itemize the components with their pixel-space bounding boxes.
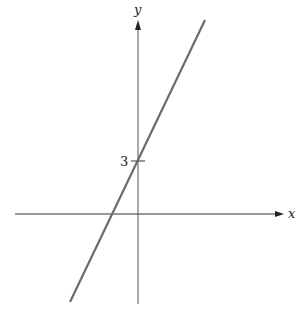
x-axis-label: x [288, 206, 296, 221]
y-axis-label: y [133, 2, 142, 17]
x-axis-arrow-icon [275, 211, 284, 217]
y-tick-label-3: 3 [120, 154, 128, 169]
chart-canvas: y x 3 [0, 0, 301, 316]
y-axis-arrow-icon [135, 20, 141, 30]
